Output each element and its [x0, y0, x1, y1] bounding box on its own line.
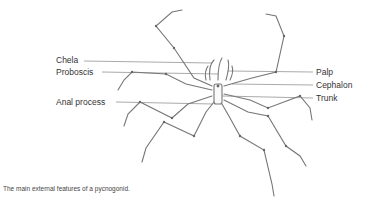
label-proboscis: Proboscis	[56, 68, 93, 77]
label-chela: Chela	[56, 56, 78, 65]
figure-caption: The main external features of a pycnogon…	[3, 185, 130, 192]
pycnogonid-body	[118, 10, 312, 196]
label-cephalon: Cephalon	[316, 81, 352, 90]
label-anal-process: Anal process	[56, 98, 105, 107]
leader-lines	[84, 61, 313, 104]
label-trunk: Trunk	[316, 94, 337, 103]
label-palp: Palp	[316, 68, 333, 77]
